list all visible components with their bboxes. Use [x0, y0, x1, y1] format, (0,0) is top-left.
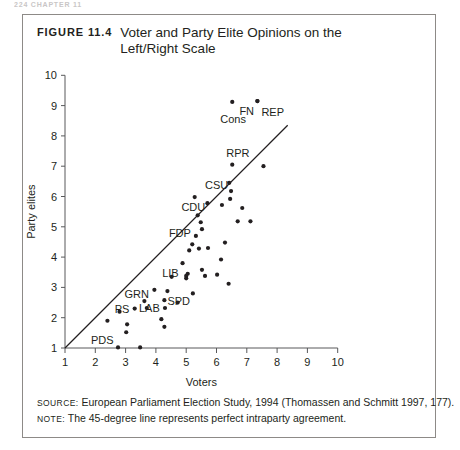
source-key: Source:: [37, 398, 79, 408]
data-point: [124, 330, 128, 334]
data-point: [219, 257, 223, 261]
note-key: Note:: [37, 414, 65, 424]
data-point: [203, 274, 207, 278]
x-axis-title: Voters: [186, 376, 218, 388]
y-tick-label: 5: [51, 221, 57, 233]
data-point-label: PDS: [91, 334, 114, 346]
data-point: [193, 195, 197, 199]
x-tick-label: 9: [304, 356, 310, 368]
y-tick-label: 10: [45, 69, 57, 81]
figure-footer: Source: European Parliament Election Stu…: [37, 395, 423, 427]
data-point-label: SPD: [167, 295, 190, 307]
data-point: [184, 274, 188, 278]
scatter-plot: 1234567891012345678910 PDSPSLABGRNSPDLIB…: [23, 15, 437, 439]
x-tick-label: 10: [332, 356, 344, 368]
source-text: European Parliament Election Study, 1994…: [79, 396, 455, 408]
data-point-label: LIB: [162, 267, 179, 279]
data-point-label: REP: [261, 106, 284, 118]
data-point: [255, 99, 259, 103]
data-point: [152, 288, 156, 292]
data-point: [105, 319, 109, 323]
figure-container: FIGURE 11.4 Voter and Party Elite Opinio…: [22, 14, 436, 438]
x-tick-label: 8: [274, 356, 280, 368]
data-point: [125, 322, 129, 326]
data-point: [200, 268, 204, 272]
data-point: [200, 227, 204, 231]
data-point: [228, 197, 232, 201]
plot-canvas: 1234567891012345678910 PDSPSLABGRNSPDLIB…: [23, 15, 437, 439]
data-point-label: PS: [115, 303, 130, 315]
data-point: [236, 219, 240, 223]
data-point-label: FDP: [169, 227, 191, 239]
y-tick-label: 8: [51, 130, 57, 142]
y-tick-label: 4: [51, 251, 57, 263]
data-point: [197, 247, 201, 251]
data-point: [199, 220, 203, 224]
data-point: [220, 203, 224, 207]
data-point: [194, 234, 198, 238]
data-point: [180, 261, 184, 265]
running-header: 224 CHAPTER 11: [14, 1, 194, 8]
y-tick-label: 2: [51, 312, 57, 324]
x-tick-label: 5: [183, 356, 189, 368]
y-tick-label: 9: [51, 100, 57, 112]
data-point: [240, 206, 244, 210]
data-point: [196, 213, 200, 217]
data-point: [215, 273, 219, 277]
data-point: [116, 345, 120, 349]
y-tick-label: 7: [51, 160, 57, 172]
y-axis-title: Party elites: [25, 184, 37, 239]
data-point-label: LAB: [139, 302, 160, 314]
data-point: [165, 289, 169, 293]
data-point: [230, 100, 234, 104]
x-tick-label: 3: [123, 356, 129, 368]
x-tick-label: 1: [62, 356, 68, 368]
data-point-label: CSU: [205, 179, 228, 191]
data-point: [227, 282, 231, 286]
x-tick-label: 4: [153, 356, 159, 368]
y-tick-label: 6: [51, 191, 57, 203]
data-point-label: CDU: [181, 201, 205, 213]
data-point: [223, 240, 227, 244]
data-point: [190, 242, 194, 246]
data-point: [205, 201, 209, 205]
data-point: [162, 298, 166, 302]
data-point: [230, 163, 234, 167]
note-text: The 45-degree line represents perfect in…: [65, 412, 346, 424]
x-tick-label: 2: [92, 356, 98, 368]
data-point-label: RPR: [226, 147, 249, 159]
y-tick-label: 1: [51, 342, 57, 354]
data-point: [261, 164, 265, 168]
data-point: [248, 219, 252, 223]
data-point: [191, 291, 195, 295]
data-point-label: GRN: [124, 288, 149, 300]
data-point: [206, 246, 210, 250]
x-tick-label: 7: [244, 356, 250, 368]
data-point: [162, 325, 166, 329]
data-point: [159, 317, 163, 321]
data-point: [133, 307, 137, 311]
data-point: [138, 345, 142, 349]
y-tick-label: 3: [51, 281, 57, 293]
data-point-label: FN: [239, 105, 254, 117]
source-line: Source: European Parliament Election Stu…: [37, 395, 423, 411]
note-line: Note: The 45-degree line represents perf…: [37, 411, 423, 427]
data-point: [187, 248, 191, 252]
x-tick-label: 6: [213, 356, 219, 368]
data-point: [229, 189, 233, 193]
